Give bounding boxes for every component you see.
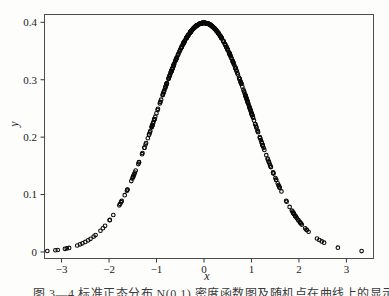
y-axis-tick-label: 0.2 <box>23 131 37 143</box>
scatter-point <box>108 218 112 222</box>
x-axis-tick-label: −2 <box>103 263 115 275</box>
figure-caption: 图 3—4 标准正态分布 N(0,1) 密度函数图及随机点在曲线上的显示 <box>33 287 389 296</box>
scatter-point <box>256 130 260 134</box>
scatter-point <box>46 249 50 253</box>
x-axis-tick-label: −3 <box>56 263 68 275</box>
scatter-point <box>123 193 127 197</box>
y-axis-tick-label: 0.3 <box>23 74 37 86</box>
y-axis-tick-label: 0 <box>32 246 38 258</box>
y-axis-label: y <box>7 118 21 130</box>
scatter-point <box>99 229 103 233</box>
scatter-point <box>235 69 239 73</box>
scatter-point <box>241 85 245 89</box>
scatter-point <box>89 237 93 241</box>
scatter-point <box>322 241 326 245</box>
scatter-point <box>252 119 256 123</box>
figure-container: −3−2−1012300.10.20.30.4 x y 图 3—4 标准正态分布… <box>0 0 389 296</box>
scatter-point <box>94 233 98 237</box>
y-axis-tick-label: 0.4 <box>23 16 37 28</box>
scatter-point <box>280 190 284 194</box>
scatter-point <box>129 179 133 183</box>
scatter-point <box>67 246 71 250</box>
scatter-point <box>112 213 116 217</box>
x-axis-label: x <box>201 269 213 283</box>
scatter-point <box>126 188 130 192</box>
x-axis-tick-label: −1 <box>151 263 163 275</box>
scatter-point <box>288 205 292 209</box>
y-axis-tick-label: 0.1 <box>23 188 37 200</box>
scatter-point <box>284 199 288 203</box>
x-axis-tick-label: 1 <box>249 263 255 275</box>
scatter-point <box>143 146 147 150</box>
scatter-point <box>146 136 150 140</box>
scatter-point <box>155 111 159 115</box>
scatter-point <box>156 107 160 111</box>
scatter-point <box>336 246 340 250</box>
plot-frame <box>45 15 374 259</box>
x-axis-tick-label: 3 <box>344 263 350 275</box>
x-axis-tick-label: 2 <box>296 263 302 275</box>
plot-area: −3−2−1012300.10.20.30.4 <box>0 0 389 296</box>
scatter-point <box>56 248 60 252</box>
scatter-point <box>264 153 268 157</box>
scatter-point <box>222 39 226 43</box>
scatter-point <box>360 249 364 253</box>
scatter-point <box>250 113 254 117</box>
scatter-point <box>178 49 182 53</box>
